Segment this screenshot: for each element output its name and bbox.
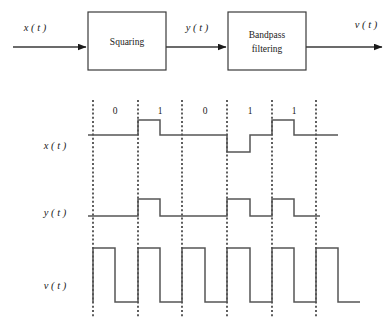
input-signal-label: x ( t ) (23, 22, 47, 34)
block-bandpass: Bandpass filtering (228, 12, 306, 70)
bit-label-2: 0 (203, 106, 208, 116)
bit-label-0: 0 (113, 106, 118, 116)
waveform-path-y (88, 199, 320, 216)
signal-processing-timing-figure: x ( t ) Squaring y ( t ) Bandpass filter… (0, 0, 390, 333)
waveform-row-v: v ( t ) (44, 248, 360, 302)
waveform-path-x (88, 120, 338, 152)
bandpass-block-label-line1: Bandpass (249, 30, 286, 40)
waveform-path-v (93, 248, 360, 302)
block-diagram: x ( t ) Squaring y ( t ) Bandpass filter… (13, 12, 382, 70)
bandpass-block-label-line2: filtering (252, 44, 283, 54)
block-squaring: Squaring (88, 12, 166, 70)
waveform-row-x: x ( t ) (43, 120, 338, 152)
mid-signal-label: y ( t ) (185, 22, 209, 34)
squaring-block-label: Squaring (110, 37, 145, 47)
waveform-label-v: v ( t ) (44, 280, 67, 292)
bit-label-1: 1 (158, 106, 163, 116)
waveform-label-x: x ( t ) (43, 140, 67, 152)
output-signal-label: v ( t ) (355, 19, 378, 31)
bit-labels: 0 1 0 1 1 (113, 106, 297, 116)
waveform-label-y: y ( t ) (43, 207, 67, 219)
bit-label-3: 1 (248, 106, 253, 116)
timing-diagram: 0 1 0 1 1 x ( t ) y ( t ) v ( t ) (43, 100, 360, 318)
bandpass-block-rect (228, 12, 306, 70)
bit-label-4: 1 (292, 106, 297, 116)
